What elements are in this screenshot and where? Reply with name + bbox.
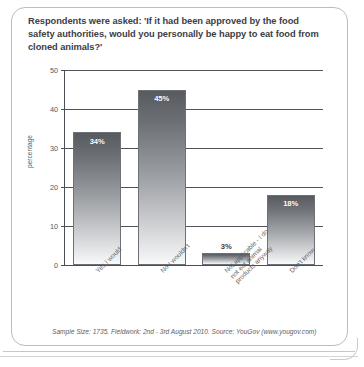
page-root: Respondents were asked: 'If it had been …: [0, 0, 364, 367]
y-axis-tick: [61, 148, 65, 149]
y-axis-tick-label: 20: [50, 183, 58, 192]
bar-value-label: 34%: [73, 137, 121, 146]
y-axis-tick: [61, 70, 65, 71]
y-axis-tick-label: 40: [50, 105, 58, 114]
y-axis-tick-label: 0: [54, 261, 58, 270]
bar[interactable]: [138, 90, 186, 266]
gridline: [65, 70, 323, 71]
y-axis-tick: [61, 265, 65, 266]
y-axis-tick: [61, 109, 65, 110]
gridline: [65, 109, 323, 110]
bar-value-label: 45%: [138, 94, 186, 103]
plot-area: 01020304050 34%45%3%18%: [64, 70, 323, 266]
y-axis-title: percentage: [26, 135, 33, 168]
y-axis-tick-label: 10: [50, 222, 58, 231]
y-axis-tick-label: 30: [50, 144, 58, 153]
bar-value-label: 18%: [267, 199, 315, 208]
y-axis-tick: [61, 226, 65, 227]
y-axis-tick-label: 50: [50, 66, 58, 75]
chart-figure: percentage 01020304050 34%45%3%18% Yes I…: [0, 0, 364, 367]
source-note: Sample Size: 1735. Fieldwork: 2nd - 3rd …: [52, 328, 322, 335]
y-axis-tick: [61, 187, 65, 188]
bar[interactable]: [73, 132, 121, 265]
